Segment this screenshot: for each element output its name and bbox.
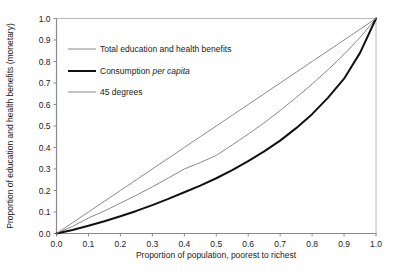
y-tick-label: 0.7 — [39, 78, 51, 88]
y-tick-label: 0.4 — [39, 143, 51, 153]
y-tick-label: 0.5 — [39, 121, 51, 131]
x-tick-label: 0.0 — [51, 239, 63, 249]
legend-label-2: 45 degrees — [100, 87, 143, 97]
x-tick-label: 0.5 — [210, 239, 222, 249]
x-axis-tick-labels: 0.00.10.20.30.40.50.60.70.80.91.0 — [51, 239, 383, 249]
lorenz-curve-chart: 0.00.10.20.30.40.50.60.70.80.91.0 0.00.1… — [0, 0, 404, 279]
legend-label-italic-1: per capita — [151, 66, 190, 76]
y-tick-label: 0.3 — [39, 164, 51, 174]
y-tick-label: 0.2 — [39, 186, 51, 196]
x-tick-label: 0.9 — [338, 239, 350, 249]
x-tick-label: 0.3 — [146, 239, 158, 249]
x-tick-label: 1.0 — [370, 239, 382, 249]
y-axis-title: Proportion of education and health benef… — [5, 23, 15, 229]
x-tick-label: 0.4 — [178, 239, 190, 249]
y-axis-tick-labels: 0.00.10.20.30.40.50.60.70.80.91.0 — [39, 14, 51, 239]
y-tick-label: 0.9 — [39, 35, 51, 45]
x-axis-title: Proportion of population, poorest to ric… — [136, 250, 297, 260]
legend-label-1: Consumption per capita — [100, 66, 190, 76]
x-tick-label: 0.8 — [306, 239, 318, 249]
chart-figure: 0.00.10.20.30.40.50.60.70.80.91.0 0.00.1… — [0, 0, 404, 279]
x-tick-label: 0.6 — [242, 239, 254, 249]
y-tick-label: 0.8 — [39, 57, 51, 67]
y-tick-label: 0.0 — [39, 229, 51, 239]
x-tick-label: 0.2 — [114, 239, 126, 249]
chart-legend: Total education and health benefitsConsu… — [68, 44, 231, 97]
y-tick-label: 0.6 — [39, 100, 51, 110]
y-tick-label: 0.1 — [39, 207, 51, 217]
x-tick-label: 0.1 — [83, 239, 95, 249]
y-tick-label: 1.0 — [39, 14, 51, 24]
legend-label-0: Total education and health benefits — [100, 44, 231, 54]
x-tick-label: 0.7 — [274, 239, 286, 249]
